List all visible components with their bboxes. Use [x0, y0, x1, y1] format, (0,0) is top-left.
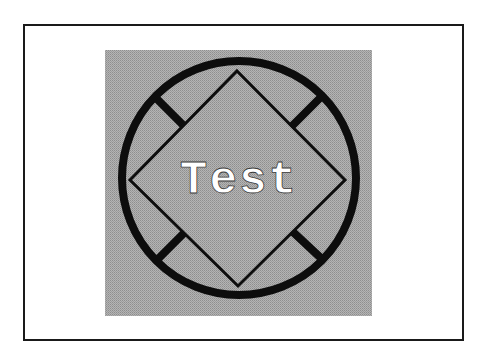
test-label: Test — [180, 155, 298, 207]
test-emblem-graphic: Test — [0, 0, 489, 354]
